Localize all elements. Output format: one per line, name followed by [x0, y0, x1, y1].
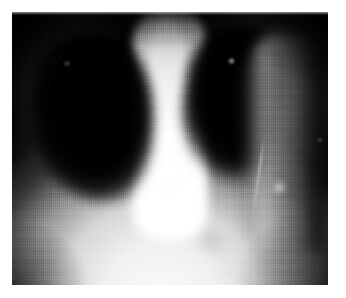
plate-top-edge-glow: [12, 12, 328, 15]
page-background: [0, 0, 346, 298]
chest-xray-image: [12, 12, 328, 285]
vertical-scanline-texture: [12, 12, 328, 285]
